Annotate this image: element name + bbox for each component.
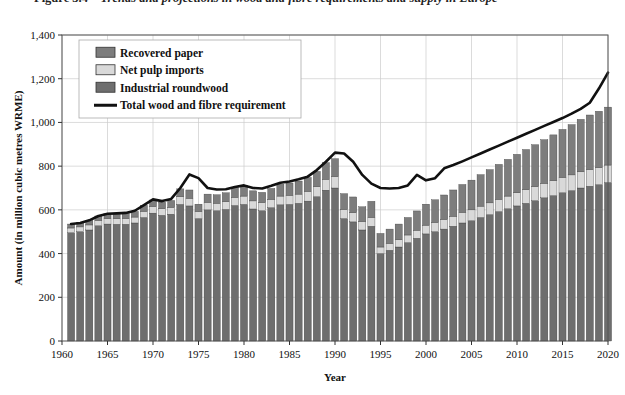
bars-layer bbox=[68, 107, 612, 341]
bar-segment bbox=[168, 200, 175, 207]
y-axis-ticks: 02004006008001,0001,2001,400 bbox=[30, 29, 62, 347]
bar-segment bbox=[204, 194, 211, 202]
bar-segment bbox=[422, 234, 429, 341]
bar-segment bbox=[495, 199, 502, 211]
bar-segment bbox=[477, 175, 484, 206]
legend-swatch bbox=[96, 47, 115, 57]
bar-segment bbox=[77, 227, 84, 232]
bar-segment bbox=[541, 183, 548, 197]
x-tick-label: 1980 bbox=[233, 348, 256, 360]
bar-segment bbox=[550, 181, 557, 196]
bar-segment bbox=[441, 219, 448, 229]
bar-segment bbox=[204, 202, 211, 209]
bar-segment bbox=[432, 232, 439, 341]
bar-segment bbox=[277, 184, 284, 196]
bar-segment bbox=[550, 135, 557, 181]
bar-segment bbox=[368, 226, 375, 341]
x-tick-label: 1970 bbox=[142, 348, 165, 360]
y-tick-label: 800 bbox=[39, 160, 56, 172]
bar-segment bbox=[459, 185, 466, 213]
bar-segment bbox=[322, 190, 329, 341]
bar-segment bbox=[113, 224, 120, 341]
bar-segment bbox=[304, 178, 311, 192]
bar-segment bbox=[377, 254, 384, 341]
bar-segment bbox=[86, 230, 93, 341]
bar-segment bbox=[295, 181, 302, 194]
y-tick-label: 400 bbox=[39, 248, 56, 260]
bar-segment bbox=[450, 216, 457, 226]
bar-segment bbox=[277, 205, 284, 341]
bar-segment bbox=[213, 211, 220, 341]
bar-segment bbox=[159, 209, 166, 216]
bar-segment bbox=[495, 212, 502, 341]
bar-segment bbox=[313, 187, 320, 197]
bar-segment bbox=[195, 212, 202, 219]
bar-segment bbox=[513, 193, 520, 206]
bar-segment bbox=[568, 191, 575, 341]
bar-segment bbox=[268, 199, 275, 207]
bar-segment bbox=[222, 202, 229, 210]
bar-segment bbox=[586, 186, 593, 341]
legend-label: Net pulp imports bbox=[120, 64, 204, 77]
bar-segment bbox=[404, 243, 411, 341]
bar-segment bbox=[513, 206, 520, 341]
bar-segment bbox=[331, 159, 338, 177]
bar-segment bbox=[186, 190, 193, 198]
bar-segment bbox=[504, 196, 511, 209]
bar-segment bbox=[168, 214, 175, 341]
bar-segment bbox=[532, 201, 539, 341]
y-tick-label: 200 bbox=[39, 291, 56, 303]
legend-label: Recovered paper bbox=[120, 47, 203, 60]
bar-segment bbox=[322, 179, 329, 190]
bar-segment bbox=[331, 188, 338, 341]
bar-segment bbox=[195, 204, 202, 211]
bar-segment bbox=[468, 221, 475, 341]
x-tick-label: 2020 bbox=[597, 348, 620, 360]
bar-segment bbox=[168, 207, 175, 214]
bar-segment bbox=[213, 195, 220, 204]
bar-segment bbox=[77, 232, 84, 341]
chart-container: 02004006008001,0001,2001,400 19601965197… bbox=[0, 0, 625, 395]
bar-segment bbox=[304, 201, 311, 341]
legend-label: Industrial roundwood bbox=[120, 82, 229, 94]
bar-segment bbox=[523, 203, 530, 341]
y-tick-label: 0 bbox=[50, 335, 56, 347]
bar-segment bbox=[131, 217, 138, 223]
bar-segment bbox=[86, 225, 93, 230]
bar-segment bbox=[468, 210, 475, 221]
bar-segment bbox=[441, 229, 448, 341]
bar-segment bbox=[104, 224, 111, 341]
bar-segment bbox=[122, 224, 129, 341]
bar-segment bbox=[304, 192, 311, 202]
legend-swatch bbox=[96, 82, 115, 92]
bar-segment bbox=[459, 212, 466, 222]
bar-segment bbox=[559, 129, 566, 177]
bar-segment bbox=[422, 225, 429, 234]
bar-segment bbox=[486, 203, 493, 215]
bar-segment bbox=[359, 230, 366, 341]
bar-segment bbox=[595, 185, 602, 341]
bar-segment bbox=[350, 213, 357, 222]
y-axis-title: Amount (in million cubic metres WRME) bbox=[12, 90, 25, 285]
x-axis-ticks: 1960196519701975198019851990199520002005… bbox=[51, 341, 620, 360]
x-tick-label: 2015 bbox=[552, 348, 575, 360]
bar-segment bbox=[213, 203, 220, 210]
x-tick-label: 2005 bbox=[461, 348, 484, 360]
bar-segment bbox=[222, 193, 229, 202]
bar-segment bbox=[541, 198, 548, 341]
bar-segment bbox=[259, 211, 266, 341]
x-tick-label: 2010 bbox=[506, 348, 529, 360]
bar-segment bbox=[286, 183, 293, 195]
bar-segment bbox=[586, 170, 593, 187]
bar-segment bbox=[368, 218, 375, 227]
x-tick-label: 1990 bbox=[324, 348, 347, 360]
x-axis-title: Year bbox=[324, 371, 346, 383]
bar-segment bbox=[222, 209, 229, 341]
x-tick-label: 1975 bbox=[188, 348, 211, 360]
bar-segment bbox=[341, 194, 348, 210]
bar-segment bbox=[386, 244, 393, 251]
legend-swatch bbox=[96, 65, 115, 75]
bar-segment bbox=[268, 208, 275, 341]
bar-segment bbox=[149, 213, 156, 341]
bar-segment bbox=[550, 196, 557, 341]
